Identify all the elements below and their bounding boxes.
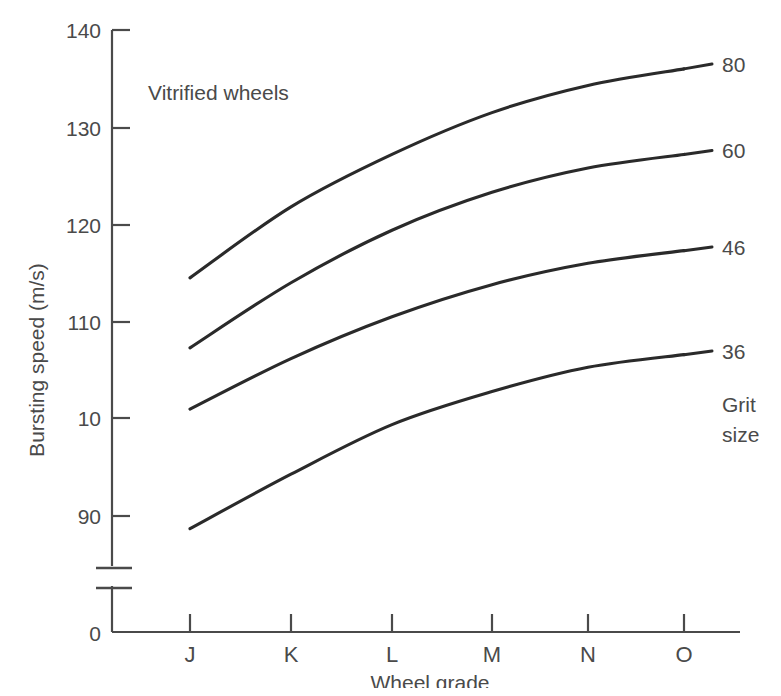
y-tick-label-120: 120 (66, 214, 101, 237)
y-tick-label-140: 140 (66, 19, 101, 42)
y-tick-label-110: 110 (68, 311, 101, 334)
y-tick-label-90: 90 (78, 505, 101, 528)
legend-title-line-2: size (722, 423, 759, 446)
y-tick-label-130: 130 (66, 117, 101, 140)
x-tick-label-l: L (386, 642, 398, 667)
page-bottom-edge (0, 688, 781, 696)
chart-figure: 140 130 120 110 10 90 0 Bursting speed (… (0, 0, 781, 696)
x-tick-label-m: M (483, 642, 501, 667)
x-tick-label-k: K (284, 642, 299, 667)
x-tick-label-n: N (580, 642, 596, 667)
legend-title-line-1: Grit (722, 393, 756, 416)
chart-background (0, 0, 781, 696)
plot-annotation-vitrified-wheels: Vitrified wheels (148, 81, 289, 104)
series-label-46: 46 (722, 236, 745, 259)
x-tick-label-j: J (185, 642, 196, 667)
series-label-80: 80 (722, 53, 745, 76)
chart-svg: 140 130 120 110 10 90 0 Bursting speed (… (0, 0, 781, 696)
y-tick-label-0: 0 (89, 622, 101, 645)
x-tick-label-o: O (675, 642, 692, 667)
series-label-36: 36 (722, 340, 745, 363)
series-label-60: 60 (722, 139, 745, 162)
y-axis-title: Bursting speed (m/s) (25, 263, 48, 457)
y-tick-label-100: 10 (78, 407, 101, 430)
